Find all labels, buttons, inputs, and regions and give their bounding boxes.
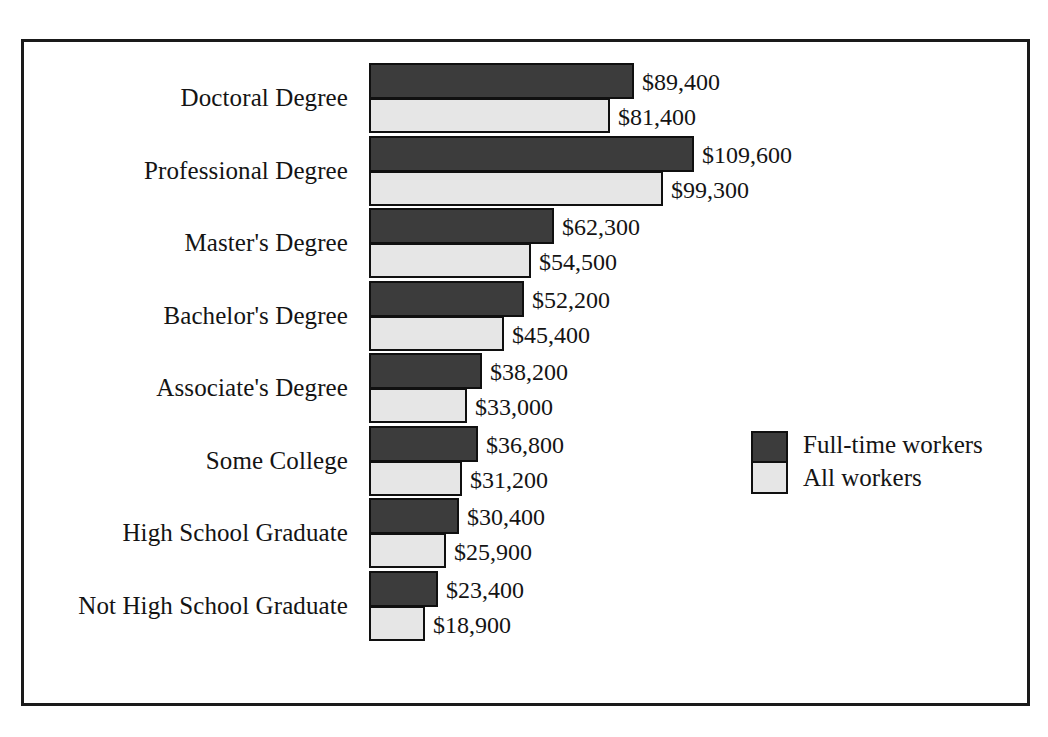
chart-frame-border: Doctoral Degree$89,400$81,400Professiona… xyxy=(21,39,1030,706)
bar-full-time-workers xyxy=(369,63,634,99)
bar-value-label: $54,500 xyxy=(539,250,617,274)
bar-all-workers xyxy=(369,171,663,206)
bar-all-workers xyxy=(369,98,610,133)
bar-value-label: $31,200 xyxy=(470,468,548,492)
category-label: Professional Degree xyxy=(144,136,348,206)
bar-value-label: $109,600 xyxy=(702,143,792,167)
bar-all-workers xyxy=(369,606,425,641)
bar-all-workers xyxy=(369,243,531,278)
bar-value-label: $62,300 xyxy=(562,215,640,239)
bar-value-label: $81,400 xyxy=(618,105,696,129)
bar-all-workers xyxy=(369,533,446,568)
bar-value-label: $33,000 xyxy=(475,395,553,419)
bar-full-time-workers xyxy=(369,281,524,317)
category-label: Bachelor's Degree xyxy=(163,281,348,351)
legend-label-full-time-workers: Full-time workers xyxy=(803,432,983,457)
bar-all-workers xyxy=(369,316,504,351)
bar-full-time-workers xyxy=(369,498,459,534)
plot-area: Doctoral Degree$89,400$81,400Professiona… xyxy=(24,42,1027,703)
bar-value-label: $18,900 xyxy=(433,613,511,637)
bar-full-time-workers xyxy=(369,571,438,607)
bar-value-label: $52,200 xyxy=(532,288,610,312)
bar-value-label: $99,300 xyxy=(671,178,749,202)
category-label: Not High School Graduate xyxy=(78,571,348,641)
category-label: Doctoral Degree xyxy=(181,63,348,133)
bar-value-label: $36,800 xyxy=(486,433,564,457)
legend-swatch-stack xyxy=(751,431,788,494)
category-label: Some College xyxy=(206,426,348,496)
category-label: High School Graduate xyxy=(122,498,348,568)
bar-full-time-workers xyxy=(369,136,694,172)
bar-value-label: $38,200 xyxy=(490,360,568,384)
legend-swatch-full-time-workers xyxy=(753,433,786,463)
category-label: Master's Degree xyxy=(184,208,348,278)
legend-swatch-all-workers xyxy=(753,463,786,493)
bar-full-time-workers xyxy=(369,353,482,389)
bar-value-label: $25,900 xyxy=(454,540,532,564)
chart-page: Doctoral Degree$89,400$81,400Professiona… xyxy=(0,0,1048,737)
bar-full-time-workers xyxy=(369,426,478,462)
bar-all-workers xyxy=(369,461,462,496)
bar-value-label: $89,400 xyxy=(642,70,720,94)
category-label: Associate's Degree xyxy=(156,353,348,423)
legend-label-all-workers: All workers xyxy=(803,465,922,490)
bar-value-label: $30,400 xyxy=(467,505,545,529)
bar-value-label: $45,400 xyxy=(512,323,590,347)
bar-value-label: $23,400 xyxy=(446,578,524,602)
bar-full-time-workers xyxy=(369,208,554,244)
bar-all-workers xyxy=(369,388,467,423)
